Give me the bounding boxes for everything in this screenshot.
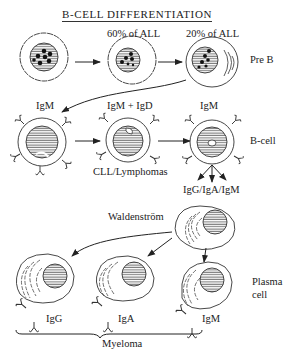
arrow-to-igm: [204, 248, 206, 262]
waldenstrom-plasma-cell: [175, 206, 235, 250]
b-cell-2: [96, 112, 160, 164]
b-cell-2-annotation: IgM + IgD: [107, 100, 153, 111]
cll-lymphomas-label: CLL/Lymphomas: [93, 166, 168, 177]
b-cell-3-annotation: IgM: [200, 100, 218, 111]
stage-label-pre-b: Pre B: [250, 54, 274, 65]
plasma-cell-igm: [175, 262, 232, 338]
pre-b-cell-3-annotation: 20% of ALL: [186, 28, 239, 39]
pre-b-cell-2-annotation: 60% of ALL: [107, 28, 160, 39]
output-arrows: [198, 165, 226, 182]
myeloma-label: Myeloma: [102, 338, 142, 349]
pre-b-cell-2: [108, 36, 156, 84]
stage-label-b-cell: B-cell: [250, 135, 276, 146]
myeloma-brace: [16, 330, 202, 338]
plasma-iga-label: IgA: [118, 313, 134, 324]
plasma-igm-label: IgM: [202, 313, 220, 324]
plasma-igg-label: IgG: [46, 313, 62, 324]
arrow-to-iga: [148, 238, 172, 256]
stage-label-plasma-line2: cell: [252, 289, 267, 300]
b-cell-1: [10, 114, 72, 175]
diagram-title: B-CELL DIFFERENTIATION: [62, 8, 212, 22]
stage-label-plasma-line1: Plasma: [252, 276, 282, 287]
pre-b-cell-3: [186, 37, 238, 87]
arrow-to-igg: [72, 232, 172, 256]
plasma-cell-igg: [15, 254, 74, 332]
b-cell-1-annotation: IgM: [36, 100, 54, 111]
pre-b-cell-1: [20, 33, 68, 81]
b-cell-output-label: IgG/IgA/IgM: [183, 184, 240, 195]
waldenstrom-label: Waldenström: [108, 211, 164, 222]
b-cell-3: [182, 114, 244, 164]
